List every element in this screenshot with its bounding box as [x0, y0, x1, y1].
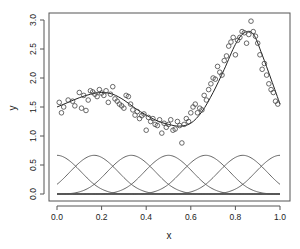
- basis-curve: [57, 155, 280, 194]
- y-tick-label: 1.0: [28, 130, 38, 142]
- data-point: [144, 128, 149, 133]
- data-point: [264, 73, 269, 78]
- data-point: [249, 19, 254, 24]
- basis-curve: [57, 155, 280, 194]
- data-point: [106, 100, 111, 105]
- data-point: [231, 35, 236, 40]
- data-point: [260, 67, 265, 72]
- y-tick-label: 1.5: [28, 101, 38, 113]
- x-tick-label: 0.4: [140, 212, 152, 222]
- x-axis-label: x: [167, 230, 172, 241]
- chart: 0.00.20.40.60.81.0 0.00.51.01.52.02.53.0…: [0, 0, 300, 249]
- data-point: [244, 41, 249, 46]
- basis-curve: [57, 155, 280, 194]
- data-point: [202, 93, 207, 98]
- data-point: [189, 111, 194, 116]
- x-tick-label: 0.8: [229, 212, 241, 222]
- basis-curve: [57, 155, 280, 194]
- data-point: [204, 98, 209, 103]
- data-point: [110, 84, 115, 89]
- data-point: [160, 131, 165, 136]
- y-tick-label: 2.0: [28, 72, 38, 84]
- y-tick-label: 0.0: [28, 188, 38, 200]
- x-axis: 0.00.20.40.60.81.0: [51, 206, 286, 222]
- data-point: [215, 64, 220, 69]
- data-point: [209, 82, 214, 87]
- data-point: [84, 108, 89, 113]
- plot-frame: [49, 13, 290, 201]
- data-points: [57, 19, 280, 145]
- x-tick-label: 0.2: [96, 212, 108, 222]
- data-point: [246, 32, 251, 37]
- data-point: [77, 90, 82, 95]
- x-tick-label: 1.0: [274, 212, 286, 222]
- basis-curve: [57, 155, 280, 194]
- data-point: [233, 53, 238, 58]
- y-tick-label: 0.5: [28, 159, 38, 171]
- x-tick-label: 0.6: [185, 212, 197, 222]
- basis-curve: [57, 155, 280, 194]
- data-point: [61, 105, 66, 110]
- y-axis-label: y: [7, 106, 18, 111]
- data-point: [222, 58, 227, 63]
- y-axis: 0.00.51.01.52.02.53.0: [28, 14, 44, 200]
- data-point: [224, 54, 229, 59]
- basis-curve: [57, 155, 280, 194]
- data-point: [229, 40, 234, 45]
- data-point: [206, 87, 211, 92]
- data-point: [86, 98, 91, 103]
- data-point: [267, 82, 272, 87]
- data-point: [73, 104, 78, 109]
- x-tick-label: 0.0: [51, 212, 63, 222]
- data-point: [168, 117, 173, 122]
- y-tick-label: 2.5: [28, 43, 38, 55]
- data-point: [180, 141, 185, 146]
- data-point: [59, 111, 64, 116]
- data-point: [66, 98, 71, 103]
- basis-functions: [57, 155, 280, 194]
- data-point: [258, 53, 263, 58]
- y-tick-label: 3.0: [28, 14, 38, 26]
- data-point: [195, 111, 200, 116]
- data-point: [79, 106, 84, 111]
- data-point: [131, 108, 136, 113]
- data-point: [57, 100, 62, 105]
